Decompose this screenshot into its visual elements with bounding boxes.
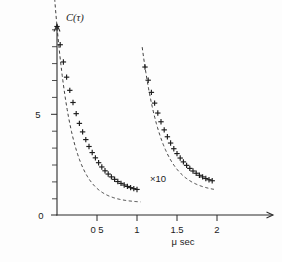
data-point-marker bbox=[106, 171, 111, 176]
data-point-marker bbox=[131, 186, 136, 191]
figure-container: 5 0 0 5 1 1.5 2 C(τ) μ sec ×10 bbox=[0, 0, 282, 262]
fit-curve-series-1 bbox=[142, 47, 216, 190]
data-point-marker bbox=[83, 137, 88, 142]
data-point-marker bbox=[74, 111, 79, 116]
data-point-marker bbox=[99, 164, 104, 169]
data-point-marker bbox=[128, 185, 133, 190]
data-point-marker bbox=[210, 178, 215, 183]
data-point-marker bbox=[187, 166, 192, 171]
data-point-marker bbox=[206, 177, 211, 182]
data-point-marker bbox=[86, 144, 91, 149]
data-point-marker bbox=[146, 78, 151, 83]
data-point-marker bbox=[184, 163, 189, 168]
fit-curve-path bbox=[54, 0, 140, 202]
data-point-marker bbox=[61, 59, 66, 64]
data-point-marker bbox=[165, 134, 170, 139]
x-tick-label-15: 1.5 bbox=[170, 224, 183, 235]
data-point-marker bbox=[178, 155, 183, 160]
data-point-marker bbox=[96, 160, 101, 165]
data-point-marker bbox=[181, 159, 186, 164]
data-point-marker bbox=[168, 140, 173, 145]
data-point-marker bbox=[102, 168, 107, 173]
data-point-marker bbox=[174, 151, 179, 156]
data-markers-series-0 bbox=[54, 24, 139, 192]
data-point-marker bbox=[171, 146, 176, 151]
x-axis-label: μ sec bbox=[172, 236, 195, 247]
data-point-marker bbox=[67, 88, 72, 93]
data-point-marker bbox=[64, 74, 69, 79]
x-tick-label-1: 1 bbox=[134, 224, 139, 235]
y-tick-label-0: 0 bbox=[38, 210, 43, 221]
data-markers-series-1 bbox=[142, 64, 215, 183]
data-point-marker bbox=[158, 119, 163, 124]
y-tick-label-5: 5 bbox=[35, 109, 40, 120]
data-point-marker bbox=[93, 155, 98, 160]
x-axis-ticks bbox=[97, 215, 217, 221]
data-point-marker bbox=[80, 129, 85, 134]
data-point-marker bbox=[152, 100, 157, 105]
y-axis-ticks bbox=[51, 30, 57, 215]
x-tick-label-05: 0 5 bbox=[90, 224, 103, 235]
correlation-decay-plot: 5 0 0 5 1 1.5 2 C(τ) μ sec ×10 bbox=[0, 0, 282, 262]
data-point-marker bbox=[70, 100, 75, 105]
data-point-marker bbox=[90, 150, 95, 155]
scale-annotation: ×10 bbox=[150, 173, 166, 184]
y-axis-label: C(τ) bbox=[66, 12, 84, 24]
data-point-marker bbox=[155, 110, 160, 115]
fit-curve-series-0 bbox=[54, 0, 140, 202]
x-tick-label-2: 2 bbox=[214, 224, 219, 235]
data-point-marker bbox=[162, 127, 167, 132]
data-point-marker bbox=[134, 187, 139, 192]
data-point-marker bbox=[77, 121, 82, 126]
data-point-marker bbox=[58, 42, 63, 47]
data-point-marker bbox=[142, 64, 147, 69]
fit-curve-path bbox=[142, 47, 216, 190]
